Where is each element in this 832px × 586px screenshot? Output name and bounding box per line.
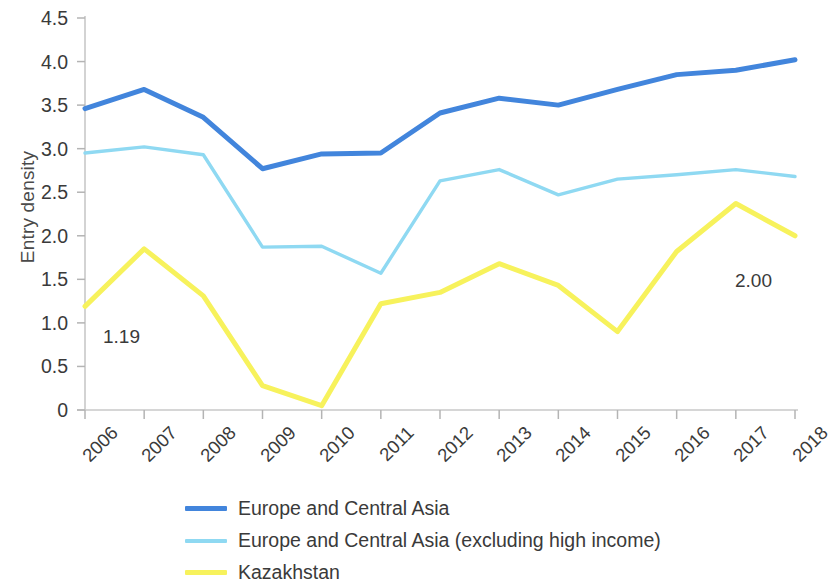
series-line-2 — [85, 204, 795, 406]
x-axis-tick-labels: 2006200720082009201020112012201320142015… — [0, 0, 798, 80]
legend-color-swatch — [185, 506, 227, 511]
data-point-label: 1.19 — [103, 326, 140, 348]
chart-legend: Europe and Central AsiaEurope and Centra… — [185, 497, 661, 584]
legend-label: Kazakhstan — [238, 563, 340, 583]
legend-color-swatch — [185, 539, 227, 543]
legend-label: Europe and Central Asia (excluding high … — [238, 531, 661, 551]
legend-label: Europe and Central Asia — [238, 499, 449, 519]
legend-item[interactable]: Kazakhstan — [185, 561, 661, 584]
legend-item[interactable]: Europe and Central Asia — [185, 497, 661, 520]
legend-color-swatch — [185, 570, 227, 575]
legend-item[interactable]: Europe and Central Asia (excluding high … — [185, 529, 661, 552]
data-point-label: 2.00 — [735, 270, 772, 292]
series-line-1 — [85, 147, 795, 273]
